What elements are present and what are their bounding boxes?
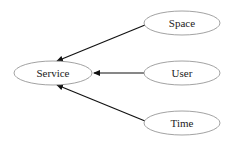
edge-time-to-service [57, 85, 145, 121]
node-service: Service [14, 61, 92, 85]
node-time: Time [144, 111, 220, 135]
node-user: User [144, 61, 220, 85]
graph-canvas: Service Space User Time [0, 0, 233, 143]
node-time-label: Time [171, 117, 194, 129]
node-service-label: Service [37, 67, 70, 79]
node-user-label: User [172, 67, 193, 79]
node-space-label: Space [169, 17, 195, 29]
node-space: Space [144, 11, 220, 35]
edge-space-to-service [57, 25, 145, 61]
